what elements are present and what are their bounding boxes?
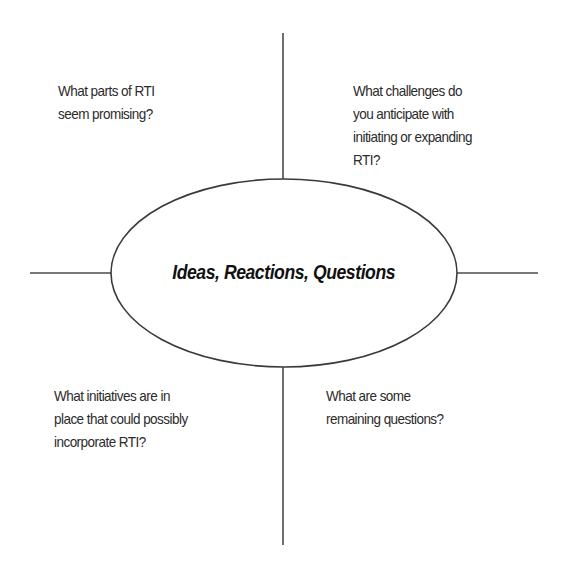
prompt-bottom-left: What initiatives are in place that could… xyxy=(54,384,188,453)
prompt-top-left: What parts of RTI seem promising? xyxy=(58,79,154,125)
center-title-text: Ideas, Reactions, Questions xyxy=(173,255,396,289)
graphic-organizer: Ideas, Reactions, Questions What parts o… xyxy=(0,0,566,584)
prompt-line: RTI? xyxy=(353,148,472,171)
prompt-line: What challenges do xyxy=(353,79,472,102)
prompt-line: you anticipate with xyxy=(353,102,472,125)
prompt-line: place that could possibly xyxy=(54,407,188,430)
prompt-line: What are some xyxy=(326,384,444,407)
prompt-line: initiating or expanding xyxy=(353,125,472,148)
prompt-line: What parts of RTI xyxy=(58,79,154,102)
prompt-line: What initiatives are in xyxy=(54,384,188,407)
prompt-line: incorporate RTI? xyxy=(54,430,188,453)
prompt-bottom-right: What are some remaining questions? xyxy=(326,384,444,430)
prompt-line: seem promising? xyxy=(58,102,154,125)
prompt-top-right: What challenges do you anticipate with i… xyxy=(353,79,472,171)
prompt-line: remaining questions? xyxy=(326,407,444,430)
center-title: Ideas, Reactions, Questions xyxy=(111,255,457,289)
